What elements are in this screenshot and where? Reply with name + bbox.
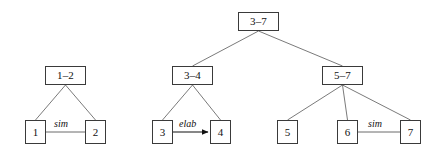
tree-edge <box>343 85 411 120</box>
tree-edge <box>36 85 66 120</box>
tree-edge <box>193 31 259 66</box>
tree-node-n7[interactable]: 7 <box>400 120 421 144</box>
tree-node-n2[interactable]: 2 <box>85 120 106 144</box>
tree-edge <box>343 85 348 120</box>
tree-edge <box>66 85 96 120</box>
relation-label-sim: sim <box>53 118 69 129</box>
tree-node-n1[interactable]: 1 <box>25 120 46 144</box>
tree-node-n3[interactable]: 3 <box>152 120 173 144</box>
node-label: 3 <box>160 127 166 138</box>
node-label: 5 <box>285 127 291 138</box>
node-label: 7 <box>408 127 414 138</box>
node-label: 6 <box>345 127 351 138</box>
node-label: 1 <box>33 127 39 138</box>
node-label: 3–4 <box>184 70 201 81</box>
relation-label-sim: sim <box>367 118 383 129</box>
node-label: 2 <box>93 127 99 138</box>
discourse-tree-diagram: 1–2123–73–45–734567 simelabsim <box>0 0 432 148</box>
relation-label-elab: elab <box>178 118 197 129</box>
tree-edge <box>259 31 343 66</box>
tree-node-n4[interactable]: 4 <box>210 120 231 144</box>
tree-node-n5[interactable]: 5 <box>277 120 298 144</box>
tree-edge <box>288 85 343 120</box>
tree-edge <box>193 85 221 120</box>
node-label: 3–7 <box>250 16 267 27</box>
tree-node-n1-2[interactable]: 1–2 <box>45 66 86 85</box>
tree-edge <box>163 85 193 120</box>
tree-node-n5-7[interactable]: 5–7 <box>322 66 363 85</box>
tree-node-n6[interactable]: 6 <box>337 120 358 144</box>
node-label: 5–7 <box>334 70 351 81</box>
node-label: 4 <box>218 127 224 138</box>
tree-node-n3-4[interactable]: 3–4 <box>172 66 213 85</box>
tree-node-n3-7[interactable]: 3–7 <box>238 12 279 31</box>
node-label: 1–2 <box>57 70 74 81</box>
